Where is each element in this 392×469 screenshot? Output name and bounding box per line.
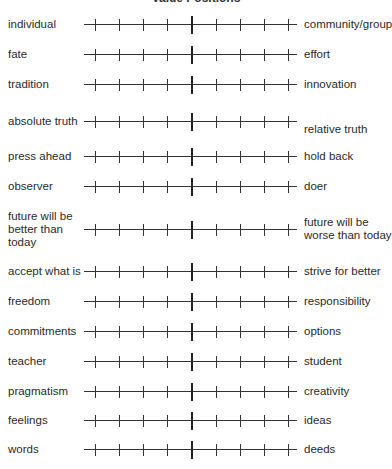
scale-tick	[143, 326, 144, 338]
scale-tick	[167, 151, 168, 163]
scale-tick	[264, 386, 265, 398]
scale-tick	[216, 79, 217, 91]
left-pole-label: tradition	[8, 78, 86, 91]
scale-tick	[95, 181, 96, 193]
scale-tick	[240, 49, 241, 61]
scale-tick	[167, 224, 168, 236]
rating-scale	[84, 74, 297, 96]
scale-tick	[167, 266, 168, 278]
left-pole-label: accept what is	[8, 265, 86, 278]
scale-tick	[143, 49, 144, 61]
scale-tick	[167, 444, 168, 456]
scale-tick	[143, 116, 144, 128]
scale-tick	[288, 415, 289, 427]
scale-tick	[240, 444, 241, 456]
scale-tick	[264, 224, 265, 236]
right-pole-label: options	[304, 325, 392, 338]
scale-tick	[264, 326, 265, 338]
scale-tick	[240, 356, 241, 368]
scale-tick	[240, 79, 241, 91]
scale-tick	[119, 296, 120, 308]
scale-tick	[119, 79, 120, 91]
left-pole-label: press ahead	[8, 150, 86, 163]
rating-scale	[84, 439, 297, 461]
scale-tick	[264, 19, 265, 31]
scale-center-mark	[191, 412, 193, 430]
scale-tick	[143, 266, 144, 278]
scale-center-mark	[191, 293, 193, 311]
scale-tick	[95, 116, 96, 128]
left-pole-label: words	[8, 443, 86, 456]
rating-scale	[84, 111, 297, 133]
rating-scale	[84, 14, 297, 36]
scale-tick	[216, 386, 217, 398]
left-pole-label: feelings	[8, 414, 86, 427]
scale-tick	[167, 356, 168, 368]
scale-tick	[288, 79, 289, 91]
scale-tick	[143, 79, 144, 91]
scale-tick	[240, 116, 241, 128]
right-pole-label: deeds	[304, 443, 392, 456]
scale-tick	[240, 415, 241, 427]
scale-tick	[216, 356, 217, 368]
scale-tick	[95, 386, 96, 398]
scale-tick	[264, 181, 265, 193]
rating-scale	[84, 261, 297, 283]
scale-tick	[95, 79, 96, 91]
scale-tick	[216, 224, 217, 236]
right-pole-label: doer	[304, 180, 392, 193]
scale-tick	[288, 326, 289, 338]
scale-tick	[167, 19, 168, 31]
rating-scale	[84, 176, 297, 198]
scale-tick	[167, 79, 168, 91]
left-pole-label: observer	[8, 180, 86, 193]
scale-tick	[119, 224, 120, 236]
scale-tick	[143, 296, 144, 308]
scale-tick	[119, 116, 120, 128]
scale-tick	[119, 326, 120, 338]
right-pole-label: creativity	[304, 385, 392, 398]
scale-tick	[143, 356, 144, 368]
scale-tick	[264, 49, 265, 61]
scale-center-mark	[191, 76, 193, 94]
scale-center-mark	[191, 178, 193, 196]
scale-tick	[240, 266, 241, 278]
scale-tick	[216, 296, 217, 308]
right-pole-label: responsibility	[304, 295, 392, 308]
scale-tick	[264, 356, 265, 368]
scale-tick	[240, 224, 241, 236]
scale-tick	[95, 415, 96, 427]
scale-tick	[240, 19, 241, 31]
scale-tick	[216, 444, 217, 456]
scale-tick	[119, 386, 120, 398]
scale-tick	[95, 444, 96, 456]
scale-tick	[95, 326, 96, 338]
scale-tick	[264, 151, 265, 163]
rating-scale	[84, 219, 297, 241]
scale-tick	[264, 266, 265, 278]
left-pole-label: future will be better than today	[8, 210, 86, 249]
right-pole-label: future will be worse than today	[304, 216, 392, 242]
rating-scale	[84, 291, 297, 313]
right-pole-label: strive for better	[304, 265, 392, 278]
right-pole-label: relative truth	[304, 123, 392, 136]
left-pole-label: fate	[8, 48, 86, 61]
scale-tick	[95, 224, 96, 236]
scale-center-mark	[191, 148, 193, 166]
scale-center-mark	[191, 323, 193, 341]
scale-tick	[288, 49, 289, 61]
scale-center-mark	[191, 263, 193, 281]
rating-scale	[84, 351, 297, 373]
scale-tick	[216, 49, 217, 61]
scale-tick	[167, 415, 168, 427]
scale-tick	[143, 151, 144, 163]
scale-center-mark	[191, 113, 193, 131]
scale-tick	[167, 386, 168, 398]
scale-tick	[143, 386, 144, 398]
right-pole-label: effort	[304, 48, 392, 61]
scale-tick	[240, 326, 241, 338]
scale-tick	[143, 224, 144, 236]
scale-tick	[240, 151, 241, 163]
scale-tick	[216, 116, 217, 128]
scale-center-mark	[191, 221, 193, 239]
